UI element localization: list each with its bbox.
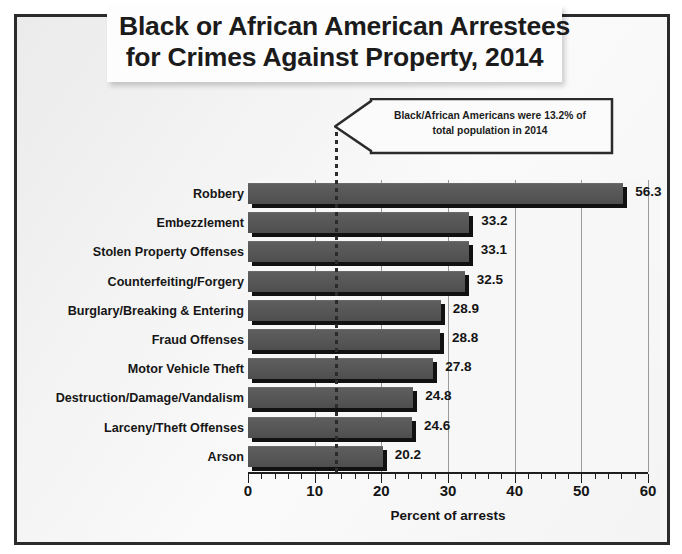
x-tick-minor-4 <box>275 474 276 479</box>
x-tick-minor-22 <box>395 474 396 479</box>
annotation-line-1: Black/African Americans were 13.2% of <box>374 109 606 124</box>
bar[interactable] <box>248 183 623 204</box>
x-axis <box>248 472 648 481</box>
annotation-line-2: total population in 2014 <box>374 124 606 139</box>
bar-value-label: 28.9 <box>453 301 479 316</box>
plot-area: 56.333.233.132.528.928.827.824.824.620.2 <box>248 180 648 472</box>
y-axis-category-labels: RobberyEmbezzlementStolen Property Offen… <box>18 180 244 472</box>
x-tick-minor-16 <box>355 474 356 479</box>
x-tick-minor-2 <box>261 474 262 479</box>
bar-row: 33.2 <box>248 209 648 238</box>
x-tick-minor-54 <box>608 474 609 479</box>
bar[interactable] <box>248 387 413 408</box>
bar-value-label: 24.6 <box>424 418 450 433</box>
x-tick-minor-26 <box>421 474 422 479</box>
reference-line-13-2 <box>335 132 338 472</box>
y-axis-label-arson: Arson <box>208 443 244 472</box>
bar-value-label: 28.8 <box>452 330 478 345</box>
annotation-callout-text: Black/African Americans were 13.2% of to… <box>374 109 606 139</box>
bar-row: 24.8 <box>248 384 648 413</box>
x-tick-minor-12 <box>328 474 329 479</box>
bar-row: 24.6 <box>248 414 648 443</box>
x-tick-minor-56 <box>621 474 622 479</box>
bar-row: 28.9 <box>248 297 648 326</box>
x-tick-minor-42 <box>528 474 529 479</box>
gridline-60 <box>648 180 649 472</box>
x-tick-minor-28 <box>435 474 436 479</box>
bar[interactable] <box>248 446 383 467</box>
x-tick-minor-34 <box>475 474 476 479</box>
x-tick-minor-6 <box>288 474 289 479</box>
y-axis-label-stolen-property-offenses: Stolen Property Offenses <box>93 238 244 267</box>
bar-row: 20.2 <box>248 443 648 472</box>
x-tick-label-60: 60 <box>640 482 657 499</box>
y-axis-label-motor-vehicle-theft: Motor Vehicle Theft <box>128 355 244 384</box>
y-axis-label-burglary-breaking-entering: Burglary/Breaking & Entering <box>68 297 244 326</box>
bar-face <box>248 183 623 204</box>
bar-value-label: 32.5 <box>477 272 503 287</box>
bar-row: 56.3 <box>248 180 648 209</box>
bar-face <box>248 417 412 438</box>
chart-title: Black or African American Arrestees for … <box>107 5 562 82</box>
bar-value-label: 24.8 <box>425 388 451 403</box>
bar-row: 33.1 <box>248 238 648 267</box>
x-tick-label-20: 20 <box>373 482 390 499</box>
x-tick-label-10: 10 <box>306 482 323 499</box>
y-axis-label-fraud-offenses: Fraud Offenses <box>152 326 244 355</box>
bar[interactable] <box>248 358 433 379</box>
chart-title-line-1: Black or African American Arrestees <box>119 11 550 42</box>
bar-series: 56.333.233.132.528.928.827.824.824.620.2 <box>248 180 648 472</box>
x-tick-label-0: 0 <box>244 482 252 499</box>
x-tick-minor-52 <box>595 474 596 479</box>
x-tick-minor-38 <box>501 474 502 479</box>
chart-container: Black or African American Arrestees for … <box>0 0 682 554</box>
x-tick-minor-8 <box>301 474 302 479</box>
bar-face <box>248 241 469 262</box>
bar[interactable] <box>248 212 469 233</box>
bar-face <box>248 271 465 292</box>
bar-row: 27.8 <box>248 355 648 384</box>
bar-face <box>248 300 441 321</box>
bar[interactable] <box>248 241 469 262</box>
x-tick-minor-46 <box>555 474 556 479</box>
x-tick-minor-32 <box>461 474 462 479</box>
x-axis-title: Percent of arrests <box>248 508 648 523</box>
x-tick-minor-48 <box>568 474 569 479</box>
bar[interactable] <box>248 271 465 292</box>
bar-face <box>248 387 413 408</box>
x-tick-minor-24 <box>408 474 409 479</box>
bar-face <box>248 446 383 467</box>
y-axis-label-robbery: Robbery <box>193 180 244 209</box>
bar-value-label: 27.8 <box>445 359 471 374</box>
bar-face <box>248 329 440 350</box>
bar-value-label: 20.2 <box>395 447 421 462</box>
bar-value-label: 56.3 <box>635 184 661 199</box>
bar-row: 28.8 <box>248 326 648 355</box>
x-tick-minor-14 <box>341 474 342 479</box>
y-axis-label-embezzlement: Embezzlement <box>157 209 244 238</box>
y-axis-label-destruction-damage-vandalism: Destruction/Damage/Vandalism <box>56 384 244 413</box>
x-tick-label-40: 40 <box>506 482 523 499</box>
x-axis-tick-labels: 0102030405060 <box>248 482 648 504</box>
bar-value-label: 33.1 <box>481 242 507 257</box>
y-axis-label-counterfeiting-forgery: Counterfeiting/Forgery <box>108 268 244 297</box>
bar-row: 32.5 <box>248 268 648 297</box>
bar-face <box>248 358 433 379</box>
bar-value-label: 33.2 <box>481 213 507 228</box>
x-tick-minor-36 <box>488 474 489 479</box>
y-axis-label-larceny-theft-offenses: Larceny/Theft Offenses <box>104 414 244 443</box>
x-tick-minor-18 <box>368 474 369 479</box>
bar[interactable] <box>248 329 440 350</box>
x-tick-minor-44 <box>541 474 542 479</box>
annotation-callout: Black/African Americans were 13.2% of to… <box>334 98 614 155</box>
x-tick-minor-58 <box>635 474 636 479</box>
x-tick-label-30: 30 <box>440 482 457 499</box>
x-tick-label-50: 50 <box>573 482 590 499</box>
bar[interactable] <box>248 300 441 321</box>
chart-title-line-2: for Crimes Against Property, 2014 <box>119 42 550 73</box>
bar-face <box>248 212 469 233</box>
bar[interactable] <box>248 417 412 438</box>
